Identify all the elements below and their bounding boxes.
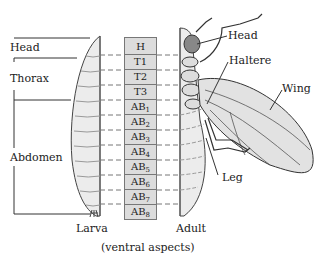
larva-label: Larva	[76, 223, 108, 235]
segment-ab8: AB8	[124, 205, 157, 220]
segment-t2: T2	[124, 70, 157, 85]
segment-ab6: AB6	[124, 175, 157, 190]
diagram-canvas	[0, 0, 325, 255]
segment-t3: T3	[124, 85, 157, 100]
label-thorax: Thorax	[10, 73, 49, 85]
segment-ab3: AB3	[124, 130, 157, 145]
segment-ab1: AB1	[124, 100, 157, 115]
callout-head: Head	[228, 30, 258, 42]
segment-ab7: AB7	[124, 190, 157, 205]
segment-column: H T1 T2 T3 AB1 AB2 AB3 AB4 AB5 AB6 AB7 A…	[124, 37, 157, 220]
label-abdomen: Abdomen	[10, 152, 63, 164]
larva-illustration	[71, 36, 100, 217]
callout-haltere: Haltere	[229, 55, 271, 67]
callout-wing: Wing	[282, 83, 311, 95]
adult-label: Adult	[176, 223, 206, 235]
segment-h: H	[124, 37, 157, 55]
segment-ab5: AB5	[124, 160, 157, 175]
figure-caption: (ventral aspects)	[101, 242, 195, 254]
adult-fly-illustration	[180, 14, 313, 216]
callout-leg: Leg	[222, 172, 243, 184]
label-head: Head	[10, 42, 40, 54]
segment-ab4: AB4	[124, 145, 157, 160]
segment-t1: T1	[124, 55, 157, 70]
segment-ab2: AB2	[124, 115, 157, 130]
